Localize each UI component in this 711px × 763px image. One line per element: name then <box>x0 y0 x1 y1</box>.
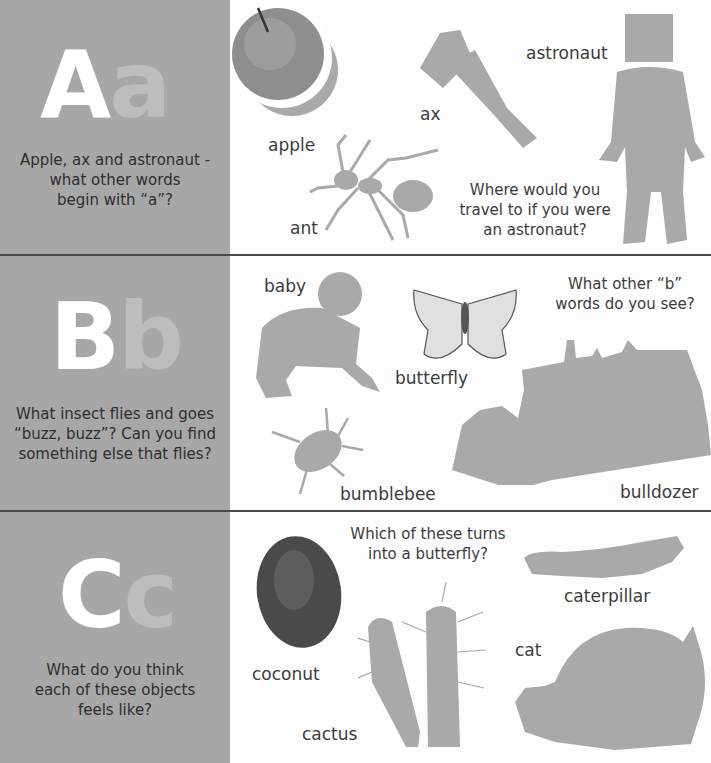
letter-b-heading: Bb <box>50 292 182 384</box>
prompt-line: what other words <box>0 170 230 190</box>
section-b-question: What other “b” words do you see? <box>550 274 700 314</box>
cat-icon <box>515 622 707 752</box>
section-b: Bb What insect flies and goes “buzz, buz… <box>0 256 711 510</box>
baby-icon <box>252 268 384 403</box>
question-line: into a butterfly? <box>348 544 508 564</box>
section-c-question: Which of these turns into a butterfly? <box>348 524 508 564</box>
section-b-pictures: baby butterfly What other “b” words do y… <box>230 256 711 510</box>
prompt-line: feels like? <box>0 700 230 720</box>
bumblebee-icon <box>268 406 368 496</box>
question-line: Where would you <box>450 180 620 200</box>
section-a-pictures: apple ax astronaut ant Where woul <box>230 0 711 254</box>
question-line: an astronaut? <box>450 220 620 240</box>
letter-c-upper: C <box>58 542 124 649</box>
question-line: travel to if you were <box>450 200 620 220</box>
letter-a-upper: A <box>40 32 109 139</box>
prompt-line: something else that flies? <box>0 444 230 464</box>
letter-b-lower: b <box>118 284 182 391</box>
prompt-line: “buzz, buzz”? Can you find <box>0 424 230 444</box>
ant-icon <box>308 130 448 242</box>
label-cactus: cactus <box>302 724 357 744</box>
section-b-prompt: What insect flies and goes “buzz, buzz”?… <box>0 404 230 464</box>
prompt-line: What do you think <box>0 660 230 680</box>
prompt-line: What insect flies and goes <box>0 404 230 424</box>
coconut-icon <box>254 520 344 650</box>
question-line: Which of these turns <box>348 524 508 544</box>
section-c-letter-panel: Cc What do you think each of these objec… <box>0 512 230 763</box>
letter-a-lower: a <box>109 32 169 139</box>
bulldozer-icon <box>452 330 711 485</box>
label-coconut: coconut <box>252 664 320 684</box>
section-c-prompt: What do you think each of these objects … <box>0 660 230 720</box>
section-b-letter-panel: Bb What insect flies and goes “buzz, buz… <box>0 256 230 510</box>
caterpillar-icon <box>522 528 687 584</box>
letter-c-lower: c <box>124 542 177 649</box>
prompt-line: begin with “a”? <box>0 190 230 210</box>
label-ax: ax <box>420 104 440 124</box>
section-c: Cc What do you think each of these objec… <box>0 512 711 763</box>
section-a-question: Where would you travel to if you were an… <box>450 180 620 240</box>
label-caterpillar: caterpillar <box>564 586 650 606</box>
cactus-icon <box>358 582 488 747</box>
prompt-line: each of these objects <box>0 680 230 700</box>
letter-a-heading: Aa <box>40 40 169 132</box>
section-a-prompt: Apple, ax and astronaut - what other wor… <box>0 150 230 210</box>
section-a: Aa Apple, ax and astronaut - what other … <box>0 0 711 254</box>
question-line: What other “b” <box>550 274 700 294</box>
letter-b-upper: B <box>50 284 118 391</box>
label-bumblebee: bumblebee <box>340 484 436 504</box>
prompt-line: Apple, ax and astronaut - <box>0 150 230 170</box>
section-a-letter-panel: Aa Apple, ax and astronaut - what other … <box>0 0 230 254</box>
section-c-pictures: coconut Which of these turns into a butt… <box>230 512 711 763</box>
label-ant: ant <box>290 218 318 238</box>
label-bulldozer: bulldozer <box>620 482 699 502</box>
question-line: words do you see? <box>550 294 700 314</box>
apple-icon <box>230 4 345 119</box>
letter-c-heading: Cc <box>58 550 176 642</box>
